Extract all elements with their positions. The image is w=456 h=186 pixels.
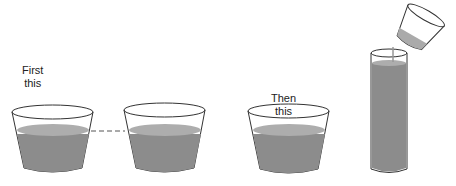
tall-cylinder-liquid-surface (372, 60, 406, 66)
tall-cylinder-liquid (372, 63, 406, 172)
beaker-3-rim (248, 104, 329, 118)
beaker-3 (248, 104, 329, 173)
beaker-1 (12, 105, 93, 172)
pouring-cup-rim (405, 1, 446, 31)
pouring-cup (391, 1, 447, 56)
tall-cylinder-rim (371, 49, 407, 57)
beaker-2-liquid (129, 134, 201, 172)
beaker-3-liquid-surface (253, 124, 325, 136)
beaker-2 (124, 103, 205, 172)
conservation-diagram (0, 0, 456, 186)
beaker-1-liquid (17, 134, 89, 172)
beaker-2-rim (124, 103, 205, 117)
tall-cylinder (371, 47, 407, 173)
beaker-1-liquid-surface (17, 124, 89, 136)
beaker-1-rim (12, 105, 93, 119)
beaker-3-liquid (253, 134, 325, 173)
beaker-2-liquid-surface (129, 124, 201, 136)
